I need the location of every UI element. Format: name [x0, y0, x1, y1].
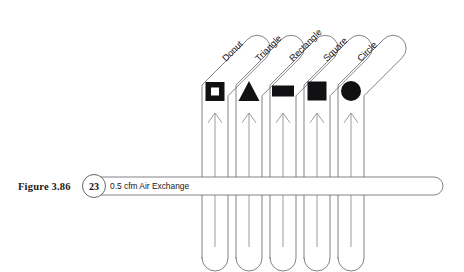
circle-shape-icon [341, 81, 361, 101]
air-exchange-supply-pipe[interactable]: 23 0.5 cfm Air Exchange [83, 175, 444, 198]
pipe-badge-number: 23 [89, 181, 99, 192]
square-shape-icon [308, 82, 327, 101]
figure-diagram: Donut Triangle Rectangle [0, 0, 464, 272]
rectangle-shape-icon [272, 86, 294, 97]
figure-caption: Figure 3.86 [18, 181, 71, 192]
donut-shape-icon [206, 82, 225, 101]
diagram-background [0, 0, 464, 272]
pipe-label-text: 0.5 cfm Air Exchange [110, 181, 189, 191]
